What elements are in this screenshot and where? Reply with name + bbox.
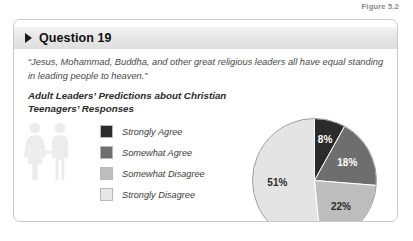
legend-item-somewhat-disagree: Somewhat Disagree — [100, 163, 230, 184]
legend-item-strongly-disagree: Strongly Disagree — [100, 184, 230, 205]
legend-label-somewhat-disagree: Somewhat Disagree — [122, 169, 205, 179]
triangle-right-icon — [25, 33, 32, 43]
pie-chart: 8%18%22%51% — [242, 108, 387, 222]
chart-title: Adult Leaders’ Predictions about Christi… — [28, 89, 258, 115]
legend-swatch-somewhat-disagree — [100, 167, 113, 180]
legend-label-somewhat-agree: Somewhat Agree — [122, 148, 192, 158]
page-title: Question 19 — [39, 31, 112, 45]
pie-chart-svg: 8%18%22%51% — [242, 108, 387, 222]
legend-swatch-strongly-agree — [100, 125, 113, 138]
pie-slice-label: 18% — [337, 157, 357, 168]
legend-item-strongly-agree: Strongly Agree — [100, 121, 230, 142]
legend-item-somewhat-agree: Somewhat Agree — [100, 142, 230, 163]
pie-slice — [253, 119, 321, 223]
two-people-svg — [18, 120, 76, 182]
panel-header: Question 19 — [14, 27, 397, 49]
two-people-icon — [18, 120, 76, 182]
pie-slice-label: 51% — [267, 177, 287, 188]
chart-legend: Strongly Agree Somewhat Agree Somewhat D… — [100, 121, 230, 205]
legend-label-strongly-agree: Strongly Agree — [122, 127, 182, 137]
legend-label-strongly-disagree: Strongly Disagree — [122, 190, 195, 200]
figure-caption: Figure 5.2 — [362, 2, 399, 11]
legend-swatch-strongly-disagree — [100, 188, 113, 201]
question-panel: Question 19 “Jesus, Mohammad, Buddha, an… — [13, 19, 398, 222]
pie-slice-label: 22% — [331, 201, 351, 212]
legend-swatch-somewhat-agree — [100, 146, 113, 159]
pie-slice-label: 8% — [318, 134, 333, 145]
question-quote: “Jesus, Mohammad, Buddha, and other grea… — [28, 56, 386, 83]
